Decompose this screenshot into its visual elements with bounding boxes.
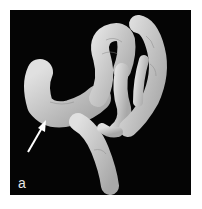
- arrow-icon: [28, 120, 46, 152]
- colon-rendering: [10, 10, 191, 195]
- image-panel: a: [10, 10, 191, 195]
- panel-label: a: [18, 176, 26, 190]
